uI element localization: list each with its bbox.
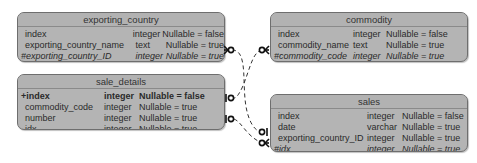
table-column-row: commodity_name text Nullable = true bbox=[271, 40, 467, 51]
column-nullable: Nullable = true bbox=[402, 144, 460, 152]
relationship-line bbox=[234, 119, 262, 143]
table-column-row-foreign-key: #commodity_code integer Nullable = true bbox=[271, 51, 467, 62]
column-name: #idx bbox=[271, 144, 367, 152]
column-nullable: Nullable = true bbox=[166, 40, 224, 51]
zero-or-one-icon bbox=[226, 115, 234, 123]
column-name: #exporting_country_ID bbox=[18, 51, 135, 62]
column-type: text bbox=[136, 40, 166, 51]
column-nullable: Nullable = false bbox=[162, 29, 224, 40]
table-title: exporting_country bbox=[18, 13, 224, 27]
column-nullable: Nullable = false bbox=[402, 111, 464, 122]
column-type: integer bbox=[133, 29, 162, 40]
table-column-row: index integer Nullable = false bbox=[271, 29, 467, 40]
table-sales[interactable]: sales index integer Nullable = false dat… bbox=[270, 94, 468, 152]
column-name: exporting_country_name bbox=[18, 40, 136, 51]
column-name: index bbox=[271, 111, 367, 122]
table-column-row-foreign-key: #exporting_country_ID integer Nullable =… bbox=[18, 51, 224, 62]
column-type: integer bbox=[104, 91, 139, 102]
column-nullable: Nullable = true bbox=[402, 133, 460, 144]
column-type: varchar bbox=[367, 122, 402, 133]
table-column-row: number integer Nullable = true bbox=[18, 113, 224, 124]
relationship-line bbox=[232, 50, 262, 132]
column-type: integer bbox=[353, 29, 386, 40]
column-name: index bbox=[18, 29, 133, 40]
table-column-row: commodity_code integer Nullable = true bbox=[18, 102, 224, 113]
relationship-line bbox=[234, 50, 262, 98]
crows-foot-zero-many-icon bbox=[259, 46, 269, 54]
column-type: integer bbox=[104, 113, 139, 124]
table-column-row-primary-key: +index integer Nullable = false bbox=[18, 91, 224, 102]
table-column-row: idx integer Nullable = true bbox=[18, 124, 224, 130]
column-name: idx bbox=[18, 124, 104, 130]
column-name: commodity_code bbox=[18, 102, 104, 113]
table-title: sale_details bbox=[18, 75, 224, 89]
column-type: integer bbox=[104, 124, 139, 130]
column-name: commodity_name bbox=[271, 40, 353, 51]
column-type: integer bbox=[367, 133, 402, 144]
table-column-row-foreign-key: #idx integer Nullable = true bbox=[271, 144, 467, 152]
table-sale-details[interactable]: sale_details +index integer Nullable = f… bbox=[17, 74, 225, 130]
table-title: commodity bbox=[271, 13, 467, 27]
column-nullable: Nullable = true bbox=[139, 102, 197, 113]
crows-foot-zero-many-icon bbox=[259, 139, 269, 147]
table-column-row: exporting_country_name text Nullable = t… bbox=[18, 40, 224, 51]
crows-foot-zero-many-icon bbox=[224, 46, 234, 54]
column-nullable: Nullable = false bbox=[386, 29, 448, 40]
table-title: sales bbox=[271, 95, 467, 109]
table-column-row: index integer Nullable = false bbox=[271, 111, 467, 122]
zero-or-one-icon bbox=[259, 128, 267, 136]
table-column-row: index integer Nullable = false bbox=[18, 29, 224, 40]
table-column-row: date varchar Nullable = true bbox=[271, 122, 467, 133]
column-name: #commodity_code bbox=[271, 51, 353, 62]
column-name: date bbox=[271, 122, 367, 133]
column-nullable: Nullable = true bbox=[139, 113, 197, 124]
column-type: integer bbox=[104, 102, 139, 113]
column-nullable: Nullable = true bbox=[139, 124, 197, 130]
column-type: integer bbox=[353, 51, 386, 62]
table-commodity[interactable]: commodity index integer Nullable = false… bbox=[270, 12, 468, 62]
column-type: integer bbox=[135, 51, 165, 62]
column-nullable: Nullable = true bbox=[386, 40, 444, 51]
column-name: +index bbox=[18, 91, 104, 102]
column-nullable: Nullable = true bbox=[402, 122, 460, 133]
column-name: number bbox=[18, 113, 104, 124]
column-nullable: Nullable = true bbox=[166, 51, 224, 62]
table-exporting-country[interactable]: exporting_country index integer Nullable… bbox=[17, 12, 225, 62]
column-name: index bbox=[271, 29, 353, 40]
column-type: text bbox=[353, 40, 386, 51]
column-nullable: Nullable = true bbox=[386, 51, 444, 62]
table-column-row: exporting_country_ID integer Nullable = … bbox=[271, 133, 467, 144]
column-type: integer bbox=[367, 111, 402, 122]
zero-or-one-icon bbox=[226, 94, 234, 102]
column-name: exporting_country_ID bbox=[271, 133, 367, 144]
column-nullable: Nullable = false bbox=[139, 91, 205, 102]
column-type: integer bbox=[367, 144, 402, 152]
